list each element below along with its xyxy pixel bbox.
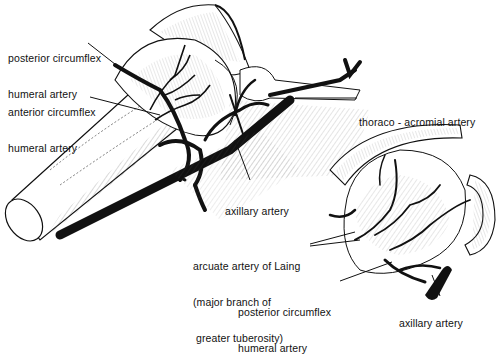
- label-line: anterior circumflex: [8, 106, 96, 118]
- label-anterior-circumflex: anterior circumflex humeral artery: [8, 82, 96, 178]
- label-posterior-circumflex-bottom: posterior circumflex humeral artery: [238, 282, 331, 358]
- label-line: posterior circumflex: [8, 52, 101, 64]
- label-line: axillary artery: [399, 317, 463, 329]
- label-thoraco-acromial: thoraco - acromial artery: [359, 92, 475, 152]
- label-axillary-main: axillary artery: [225, 181, 289, 241]
- label-line: humeral artery: [238, 342, 331, 354]
- label-line: humeral artery: [8, 142, 96, 154]
- label-line: axillary artery: [225, 205, 289, 217]
- label-line: arcuate artery of Laing: [193, 260, 300, 272]
- label-axillary-inset: axillary artery: [399, 293, 463, 353]
- label-line: thoraco - acromial artery: [359, 116, 475, 128]
- label-line: posterior circumflex: [238, 306, 331, 318]
